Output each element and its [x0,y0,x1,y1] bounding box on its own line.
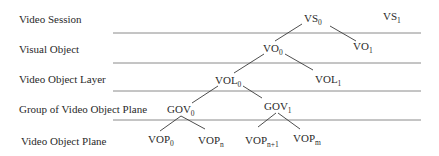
node-vo0: VO0 [263,42,283,57]
node-gov1: GOV1 [264,100,292,115]
node-vop0: VOP0 [148,133,174,148]
node-vs1: VS1 [383,10,401,25]
level-label-video-object-layer: Video Object Layer [19,73,106,85]
level-label-video-session: Video Session [19,13,82,25]
node-vol0: VOL0 [215,74,242,89]
node-vopn1: VOPn+1 [245,134,279,149]
edge-vol0-gov0 [192,86,218,103]
node-gov0: GOV0 [167,103,195,118]
node-vopn: VOPn [198,134,224,149]
edge-vol0-gov1 [243,86,262,98]
node-vs0: VS0 [304,12,322,27]
edge-gov0-vop0 [160,116,181,131]
node-vopm: VOPm [293,132,321,147]
mpeg4-hierarchy-diagram: Video Session Visual Object Video Object… [0,0,439,156]
node-vo1: VO1 [353,40,373,55]
level-label-visual-object: Visual Object [19,43,79,55]
edge-vo0-vol1 [285,54,313,70]
level-label-group-of-vop: Group of Video Object Plane [19,103,147,115]
node-vol1: VOL1 [315,73,342,88]
edge-gov1-vopm [278,113,300,129]
level-label-video-object-plane: Video Object Plane [21,135,107,147]
